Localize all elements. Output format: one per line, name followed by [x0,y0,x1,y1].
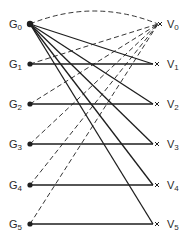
node-label: G1 [9,58,23,72]
node-g3: G3 [9,138,33,152]
x-marker-icon [155,142,159,146]
node-g5: G5 [9,218,33,232]
node-label: G0 [9,18,23,32]
node-v4: V4 [155,179,179,193]
node-label: V2 [167,98,179,112]
node-label: V5 [167,218,179,232]
node-label: V0 [167,18,179,32]
edge-dashed-arc-g0-v0 [30,11,158,24]
solid-edges [30,24,153,224]
edge-solid-g0-v5 [30,24,153,224]
node-label: G2 [9,98,23,112]
node-v3: V3 [155,138,179,152]
x-marker-icon [158,22,162,26]
node-dot-icon [27,101,32,106]
node-g4: G4 [9,179,33,193]
node-dot-icon [27,141,32,146]
node-label: V1 [167,58,179,72]
node-v5: V5 [155,218,179,232]
node-g2: G2 [9,98,33,112]
hub-dot-icon [27,21,33,27]
x-marker-icon [155,102,159,106]
node-dot-icon [27,182,32,187]
node-label: G3 [9,138,23,152]
node-label: V3 [167,138,179,152]
node-g1: G1 [9,58,33,72]
x-marker-icon [155,222,159,226]
edge-solid-g0-v3 [30,24,153,144]
node-label: V4 [167,179,179,193]
x-marker-icon [155,62,159,66]
bipartite-graph-diagram: G0G1G2G3G4G5V0V1V2V3V4V5 [0,0,189,244]
node-dot-icon [27,61,32,66]
node-label: G4 [9,179,23,193]
node-v2: V2 [155,98,179,112]
x-marker-icon [155,183,159,187]
node-v1: V1 [155,58,179,72]
node-dot-icon [27,221,32,226]
node-label: G5 [9,218,23,232]
nodes: G0G1G2G3G4G5V0V1V2V3V4V5 [9,18,179,232]
node-v0: V0 [158,18,179,32]
